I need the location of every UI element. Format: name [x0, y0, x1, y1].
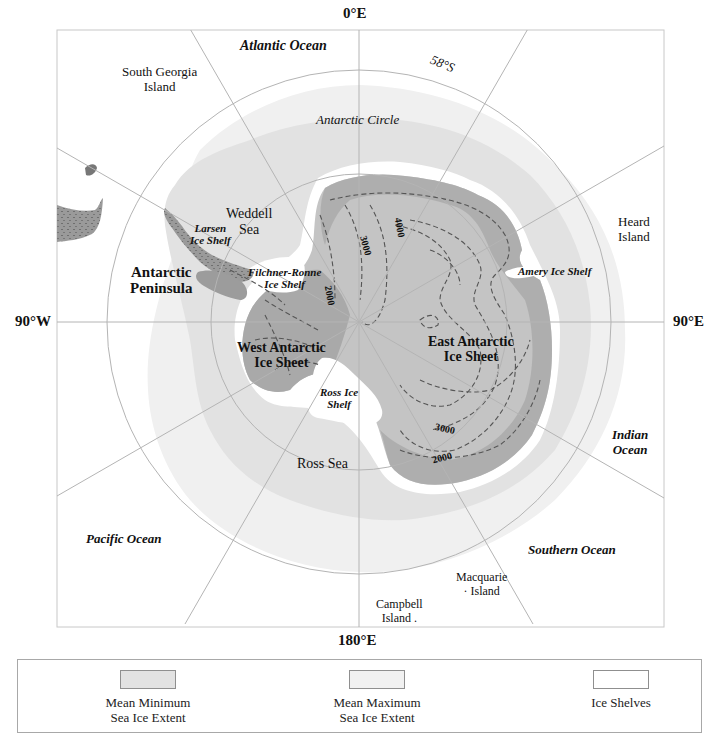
swatch-ice-shelves [593, 670, 649, 689]
label-ross-ice-shelf: Ross Ice Shelf [320, 386, 358, 410]
swatch-mean-min-sea-ice [120, 670, 176, 689]
label-east-antarctic-ice-sheet: East Antarctic Ice Sheet [428, 334, 514, 364]
label-larsen-ice-shelf: Larsen Ice Shelf [190, 222, 231, 246]
legend-item-ice-shelves: Ice Shelves [521, 660, 716, 710]
map-panel: Atlantic Ocean 58°S South Georgia Island… [0, 0, 716, 650]
label-heard-island: Heard Island [618, 214, 650, 244]
label-macquarie-island: Macquarie · Island [456, 570, 507, 598]
label-west-antarctic-ice-sheet: West Antarctic Ice Sheet [237, 340, 326, 370]
label-weddell-sea: Weddell Sea [226, 206, 272, 238]
label-antarctic-peninsula: Antarctic Peninsula [130, 264, 193, 296]
swatch-mean-max-sea-ice [349, 670, 405, 689]
legend-item-mean-max-sea-ice: Mean Maximum Sea Ice Extent [277, 660, 477, 725]
label-south-georgia: South Georgia Island [122, 64, 197, 94]
label-indian-ocean: Indian Ocean [612, 427, 648, 457]
label-antarctic-circle: Antarctic Circle [316, 112, 399, 128]
label-southern-ocean: Southern Ocean [528, 542, 616, 558]
label-filchner-ronne-ice-shelf: Filchner-Ronne Ice Shelf [248, 266, 321, 290]
label-campbell-island: Campbell Island . [376, 597, 423, 625]
label-ross-sea: Ross Sea [297, 456, 348, 472]
legend-item-mean-min-sea-ice: Mean Minimum Sea Ice Extent [48, 660, 248, 725]
label-atlantic-ocean: Atlantic Ocean [240, 38, 327, 54]
map-legend: Mean Minimum Sea Ice Extent Mean Maximum… [17, 659, 702, 733]
legend-label-mean-min-sea-ice: Mean Minimum Sea Ice Extent [48, 695, 248, 725]
legend-label-mean-max-sea-ice: Mean Maximum Sea Ice Extent [277, 695, 477, 725]
label-amery-ice-shelf: Amery Ice Shelf [518, 265, 591, 277]
label-pacific-ocean: Pacific Ocean [86, 531, 161, 547]
legend-label-ice-shelves: Ice Shelves [521, 695, 716, 710]
